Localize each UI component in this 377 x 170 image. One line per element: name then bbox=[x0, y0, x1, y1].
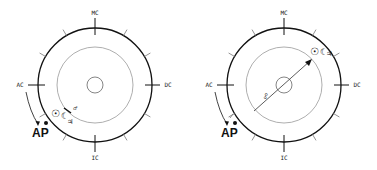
dc-label: DC bbox=[164, 81, 172, 88]
ap-arrow bbox=[215, 92, 227, 124]
core-circle bbox=[87, 77, 103, 93]
ac-label: AC bbox=[205, 81, 213, 88]
ap-arrow bbox=[26, 92, 38, 124]
chart-left: MC IC AC DC AP ☉ ☾ ♃ ♂ bbox=[16, 9, 172, 161]
jupiter-icon: ♃ bbox=[67, 118, 73, 126]
ap-point-icon bbox=[44, 121, 48, 125]
ap-point-icon bbox=[233, 121, 237, 125]
inner-circle bbox=[246, 47, 322, 123]
mc-label: MC bbox=[280, 9, 288, 16]
sun-icon: ☉ bbox=[310, 46, 319, 57]
ap-label: AP bbox=[32, 126, 49, 140]
sun-icon: ☉ bbox=[51, 108, 60, 119]
mars-icon: ♂ bbox=[73, 105, 78, 111]
opposition-line bbox=[254, 61, 310, 111]
outer-circle bbox=[38, 28, 152, 142]
ap-label: AP bbox=[221, 126, 238, 140]
outer-circle bbox=[227, 28, 341, 142]
house-ticks bbox=[40, 30, 151, 141]
ic-label: IC bbox=[280, 154, 288, 161]
diagram-canvas: MC IC AC DC AP ☉ ☾ ♃ ♂ bbox=[0, 0, 377, 170]
ac-label: AC bbox=[16, 81, 24, 88]
ic-label: IC bbox=[91, 154, 99, 161]
chart-right: MC IC AC DC ☍ AP ☉ ☾ ♃ bbox=[205, 9, 361, 161]
dc-label: DC bbox=[353, 81, 361, 88]
mc-label: MC bbox=[91, 9, 99, 16]
jupiter-icon: ♃ bbox=[326, 50, 332, 58]
opposition-icon: ☍ bbox=[261, 91, 270, 100]
